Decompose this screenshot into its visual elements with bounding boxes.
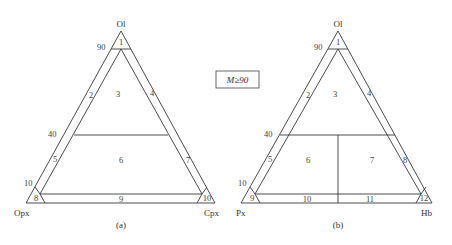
- field-10-a: 10: [203, 193, 212, 203]
- inner-band-a: [40, 49, 202, 194]
- tick-40-b: 40: [264, 129, 273, 139]
- field-12-b: 12: [420, 193, 429, 203]
- field-9-b: 9: [250, 193, 254, 203]
- field-2-b: 2: [306, 90, 310, 100]
- field-6-a: 6: [119, 155, 123, 165]
- corner-cut-right-a: [197, 194, 202, 203]
- field-1-b: 1: [336, 37, 340, 47]
- corner-cut-left-a: [40, 194, 45, 203]
- field-7-b: 7: [370, 155, 374, 165]
- ternary-diagram-a: Ol Opx Cpx 90 40 10 1 2 3 4 5 6 7 8 9 10…: [14, 19, 220, 230]
- field-5-b: 5: [268, 154, 272, 164]
- caption-b: (b): [333, 220, 344, 230]
- vertex-label-right-b: Hb: [421, 208, 432, 218]
- mg-number-condition-box: M≥90: [216, 71, 259, 88]
- vertex-label-top-a: Ol: [117, 19, 126, 29]
- ternary-diagram-b: Ol Px Hb 90 40 10 1 2 3 4 5 6 7 8 9 10 1…: [236, 19, 432, 230]
- tick-90-b: 90: [314, 42, 323, 52]
- tick-10-b: 10: [238, 178, 247, 188]
- field-3-b: 3: [333, 89, 337, 99]
- field-4-a: 4: [150, 88, 155, 98]
- field-8-b: 8: [403, 155, 407, 165]
- caption-a: (a): [116, 220, 126, 230]
- ultramafic-classification-diagrams: Ol Opx Cpx 90 40 10 1 2 3 4 5 6 7 8 9 10…: [0, 0, 452, 245]
- tick-40-a: 40: [48, 129, 57, 139]
- field-5-a: 5: [53, 154, 57, 164]
- field-10-b: 10: [303, 194, 312, 204]
- field-1-a: 1: [119, 37, 123, 47]
- field-4-b: 4: [367, 88, 372, 98]
- tick-10-a: 10: [24, 178, 33, 188]
- outer-triangle-a: [26, 31, 215, 203]
- vertex-label-right-a: Cpx: [204, 208, 220, 218]
- field-7-a: 7: [186, 155, 190, 165]
- field-8-a: 8: [34, 193, 38, 203]
- vertex-label-left-b: Px: [236, 208, 246, 218]
- corner-cut-left-b: [255, 194, 260, 203]
- condition-label: M≥90: [226, 75, 249, 85]
- vertex-label-top-b: Ol: [334, 19, 343, 29]
- tick-90-a: 90: [97, 42, 106, 52]
- field-3-a: 3: [116, 89, 120, 99]
- outer-triangle-b: [241, 31, 432, 203]
- field-2-a: 2: [89, 90, 93, 100]
- field-6-b: 6: [306, 155, 310, 165]
- vertex-label-left-a: Opx: [14, 208, 30, 218]
- field-11-b: 11: [366, 194, 374, 204]
- field-9-a: 9: [119, 194, 123, 204]
